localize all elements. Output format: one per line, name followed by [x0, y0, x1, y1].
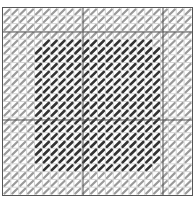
light-stitch — [154, 189, 159, 194]
dark-stitch — [146, 103, 151, 108]
dark-stitch — [107, 119, 112, 124]
dark-stitch — [138, 95, 143, 100]
dark-stitch — [146, 111, 151, 116]
dark-stitch — [60, 41, 65, 46]
dark-stitch — [146, 142, 151, 147]
light-stitch — [44, 173, 49, 178]
light-stitch — [28, 95, 33, 100]
dark-stitch — [115, 80, 120, 85]
dark-stitch — [154, 80, 159, 85]
dark-stitch — [154, 48, 159, 53]
light-stitch — [28, 165, 33, 170]
light-stitch — [28, 134, 33, 139]
dark-stitch — [99, 103, 104, 108]
light-stitch — [28, 48, 33, 53]
light-stitch — [186, 134, 191, 139]
dark-stitch — [36, 134, 41, 139]
light-stitch — [75, 173, 80, 178]
light-stitch — [5, 189, 10, 194]
dark-stitch — [154, 72, 159, 77]
light-stitch — [36, 181, 41, 186]
light-stitch — [20, 33, 25, 38]
dark-stitch — [131, 119, 136, 124]
dark-stitch — [91, 56, 96, 61]
dark-stitch — [99, 119, 104, 124]
dark-stitch — [99, 150, 104, 155]
dark-stitch — [83, 41, 88, 46]
dark-stitch — [91, 134, 96, 139]
light-stitch — [68, 181, 73, 186]
dark-stitch — [44, 56, 49, 61]
light-stitch — [20, 56, 25, 61]
light-stitch — [178, 158, 183, 163]
dark-stitch — [146, 134, 151, 139]
light-stitch — [138, 33, 143, 38]
dark-stitch — [83, 95, 88, 100]
light-stitch — [91, 173, 96, 178]
light-stitch — [12, 134, 17, 139]
light-stitch — [12, 56, 17, 61]
light-stitch — [5, 56, 10, 61]
light-stitch — [170, 103, 175, 108]
light-stitch — [20, 10, 25, 15]
light-stitch — [131, 33, 136, 38]
dark-stitch — [91, 119, 96, 124]
dark-stitch — [146, 56, 151, 61]
dark-stitch — [83, 150, 88, 155]
dark-stitch — [52, 64, 57, 69]
dark-stitch — [36, 72, 41, 77]
dark-stitch — [99, 56, 104, 61]
dark-stitch — [44, 111, 49, 116]
light-stitch — [146, 10, 151, 15]
light-stitch — [170, 64, 175, 69]
dark-stitch — [131, 80, 136, 85]
dark-stitch — [115, 134, 120, 139]
dark-stitch — [154, 56, 159, 61]
light-stitch — [99, 173, 104, 178]
light-stitch — [5, 126, 10, 131]
dark-stitch — [138, 150, 143, 155]
dark-stitch — [138, 41, 143, 46]
light-stitch — [146, 189, 151, 194]
light-stitch — [20, 189, 25, 194]
dark-stitch — [75, 165, 80, 170]
light-stitch — [36, 173, 41, 178]
dark-stitch — [91, 126, 96, 131]
dark-stitch — [91, 72, 96, 77]
dark-stitch — [146, 158, 151, 163]
light-stitch — [5, 95, 10, 100]
light-stitch — [178, 41, 183, 46]
light-stitch — [68, 25, 73, 30]
light-stitch — [28, 126, 33, 131]
dark-stitch — [75, 142, 80, 147]
light-stitch — [146, 173, 151, 178]
light-stitch — [170, 41, 175, 46]
dark-stitch — [68, 95, 73, 100]
light-stitch — [170, 119, 175, 124]
dark-stitch — [44, 165, 49, 170]
dark-stitch — [60, 48, 65, 53]
dark-stitch — [91, 87, 96, 92]
dark-stitch — [75, 126, 80, 131]
dark-stitch — [138, 165, 143, 170]
dark-stitch — [52, 150, 57, 155]
dark-stitch — [99, 80, 104, 85]
light-stitch — [178, 173, 183, 178]
light-stitch — [68, 33, 73, 38]
light-stitch — [170, 142, 175, 147]
dark-stitch — [99, 111, 104, 116]
light-stitch — [146, 181, 151, 186]
dark-stitch — [52, 103, 57, 108]
dark-stitch — [75, 64, 80, 69]
dark-stitch — [91, 165, 96, 170]
light-stitch — [123, 10, 128, 15]
dark-stitch — [138, 111, 143, 116]
dark-stitch — [138, 80, 143, 85]
light-stitch — [5, 72, 10, 77]
light-stitch — [12, 87, 17, 92]
light-stitch — [83, 25, 88, 30]
light-stitch — [5, 142, 10, 147]
light-stitch — [20, 48, 25, 53]
light-stitch — [28, 64, 33, 69]
light-stitch — [178, 111, 183, 116]
